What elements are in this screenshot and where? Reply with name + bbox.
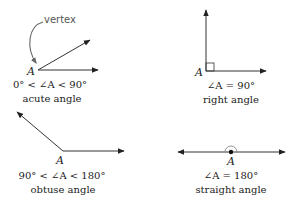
acute-ray-inclined [38,40,90,70]
acute-caption: acute angle [22,93,81,104]
acute-angle-figure: vertex A 0° < ∠A < 90° acute angle [13,14,98,104]
straight-vertex-dot [229,150,233,154]
straight-condition: ∠A = 180° [204,170,258,181]
straight-vertex-label: A [226,155,235,168]
angles-diagram: vertex A 0° < ∠A < 90° acute angle A ∠A … [0,0,295,212]
obtuse-caption: obtuse angle [30,184,95,195]
obtuse-angle-figure: A 90° < ∠A < 180° obtuse angle [17,112,124,195]
acute-condition: 0° < ∠A < 90° [13,79,87,90]
straight-caption: straight angle [195,184,266,195]
acute-vertex-label: A [26,65,35,78]
obtuse-ray-inclined [17,112,63,151]
right-angle-figure: A ∠A = 90° right angle [194,10,266,105]
straight-angle-figure: A ∠A = 180° straight angle [178,146,285,195]
right-angle-marker [206,63,214,71]
obtuse-vertex-label: A [55,154,64,167]
right-caption: right angle [203,94,259,105]
obtuse-condition: 90° < ∠A < 180° [19,170,106,181]
right-condition: ∠A = 90° [207,80,255,91]
right-vertex-label: A [194,66,203,79]
vertex-callout-arrow [30,22,43,63]
vertex-label: vertex [44,14,76,25]
